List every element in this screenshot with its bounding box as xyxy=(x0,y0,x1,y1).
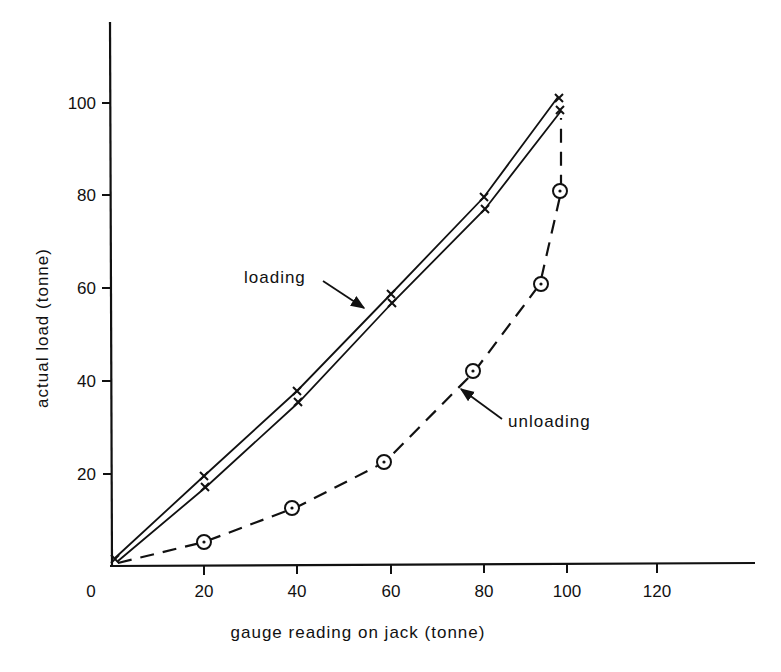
svg-text:40: 40 xyxy=(77,372,96,391)
y-axis xyxy=(110,22,112,566)
svg-text:20: 20 xyxy=(195,582,214,601)
unloading-arrow xyxy=(461,389,502,419)
load-calibration-chart: 100 80 60 40 20 0 20 40 60 80 100 120 ga… xyxy=(0,0,781,672)
loading-upper-line xyxy=(115,97,558,558)
svg-text:120: 120 xyxy=(643,582,671,601)
svg-text:60: 60 xyxy=(77,279,96,298)
x-axis-title: gauge reading on jack (tonne) xyxy=(231,623,486,642)
svg-text:100: 100 xyxy=(553,582,581,601)
unloading-annotation: unloading xyxy=(508,412,591,431)
x-tick-labels: 0 20 40 60 80 100 120 xyxy=(86,582,671,601)
svg-text:80: 80 xyxy=(475,582,494,601)
svg-text:40: 40 xyxy=(288,582,307,601)
svg-text:60: 60 xyxy=(382,582,401,601)
loading-annotation: loading xyxy=(244,268,306,287)
loading-markers xyxy=(111,94,564,563)
y-axis-title: actual load (tonne) xyxy=(33,248,52,408)
unloading-markers xyxy=(197,184,567,549)
y-tick-labels: 100 80 60 40 20 xyxy=(68,94,96,484)
svg-text:20: 20 xyxy=(77,465,96,484)
svg-text:0: 0 xyxy=(86,582,95,601)
loading-arrow xyxy=(323,281,364,308)
x-axis xyxy=(110,563,755,566)
svg-text:100: 100 xyxy=(68,94,96,113)
svg-text:80: 80 xyxy=(77,186,96,205)
unloading-line xyxy=(118,118,561,563)
